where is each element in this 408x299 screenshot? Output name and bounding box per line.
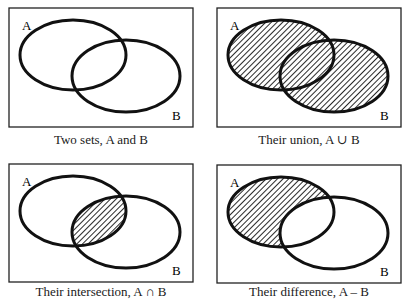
caption-difference: Their difference, A – B	[209, 284, 408, 299]
panel-two-sets: A B	[9, 8, 193, 127]
caption-union: Their union, A ∪ B	[209, 132, 408, 148]
label-b: B	[380, 264, 389, 279]
label-b: B	[172, 263, 181, 278]
caption-intersection: Their intersection, A ∩ B	[1, 284, 201, 299]
label-a: A	[230, 175, 240, 190]
panel-difference: A B	[217, 165, 401, 283]
label-a: A	[230, 18, 240, 33]
caption-two-sets: Two sets, A and B	[1, 132, 201, 148]
label-a: A	[22, 174, 32, 189]
label-b: B	[172, 108, 181, 123]
panel-union: A B	[217, 8, 401, 127]
label-a: A	[22, 18, 32, 33]
panel-intersection: A B	[9, 164, 193, 282]
venn-diagrams: A B A B A B A B	[0, 0, 408, 299]
label-b: B	[380, 108, 389, 123]
